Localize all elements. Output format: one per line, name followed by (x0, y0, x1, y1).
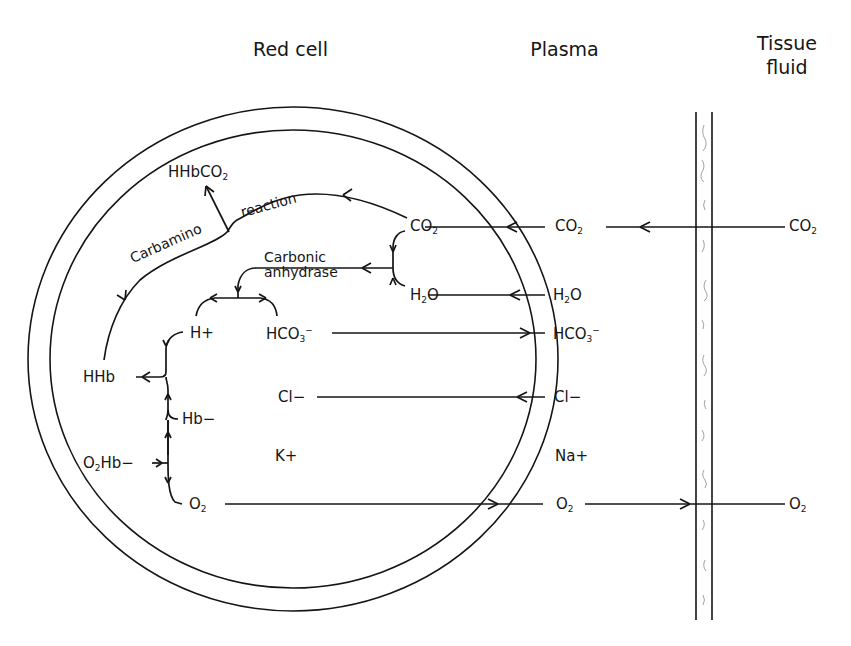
label-h2o-plasma: H2O (553, 288, 582, 305)
label-h-plus: H+ (190, 326, 214, 341)
label-o2-plasma: O2 (556, 497, 574, 514)
diagram-lines (0, 0, 851, 646)
label-o2hb: O2Hb− (83, 456, 134, 473)
label-k-plus: K+ (275, 449, 297, 464)
label-carbonic-anhydrase: Carbonic anhydrase (264, 250, 338, 281)
label-co2-tissue: CO2 (789, 219, 817, 236)
header-plasma: Plasma (527, 38, 602, 62)
label-co2-cell: CO2 (410, 219, 438, 236)
header-red-cell: Red cell (238, 38, 343, 62)
label-co2-plasma: CO2 (555, 219, 583, 236)
label-na-plus: Na+ (555, 449, 588, 464)
label-hb-minus: Hb− (182, 412, 215, 427)
label-cl-plasma: Cl− (554, 390, 581, 405)
label-o2-tissue: O2 (789, 497, 807, 514)
label-o2-cell: O2 (189, 497, 207, 514)
label-cl-cell: Cl− (278, 390, 305, 405)
label-hco3-plasma: HCO3− (553, 326, 600, 344)
label-hhbco2: HHbCO2 (168, 165, 228, 182)
label-hhb: HHb (83, 370, 115, 385)
header-tissue-fluid: Tissue fluid (752, 32, 822, 80)
wall-stipple (701, 125, 707, 605)
label-h2o-cell: H2O (410, 288, 439, 305)
header-tissue-fluid-line2: fluid (752, 56, 822, 80)
red-cell-outer-membrane (28, 107, 558, 611)
label-hco3-cell: HCO3− (266, 326, 313, 344)
header-tissue-fluid-line1: Tissue (752, 32, 822, 56)
